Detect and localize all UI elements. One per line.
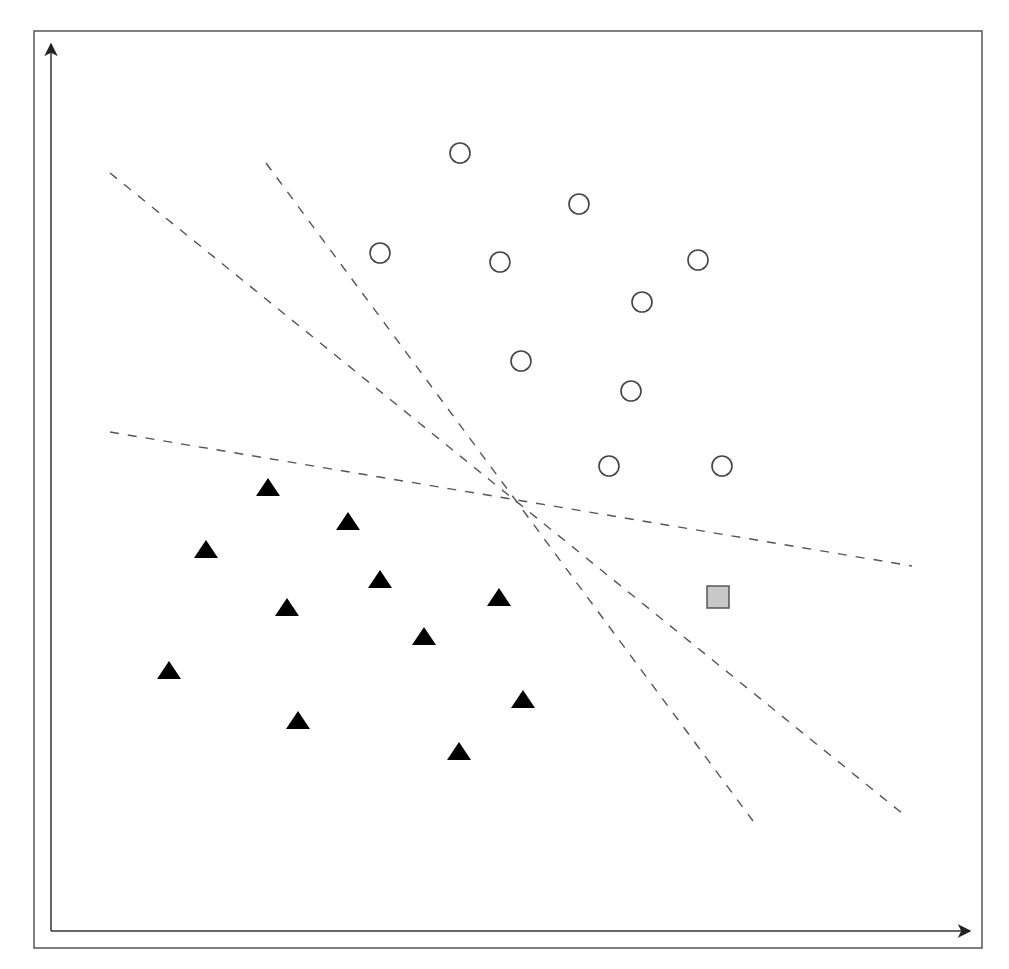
triangle-point [511,690,535,708]
triangle-point [275,598,299,616]
circle-point [599,456,619,476]
triangle-point [447,742,471,760]
triangle-point [286,711,310,729]
circle-point [511,351,531,371]
scatter-figure [0,0,1009,969]
circle-point [712,456,732,476]
circle-point [621,381,641,401]
triangle-point [412,627,436,645]
triangle-point [487,588,511,606]
triangle-point [336,512,360,530]
circle-class-points [370,143,732,476]
triangle-point [157,661,181,679]
circle-point [569,194,589,214]
figure-frame [34,31,982,948]
separating-lines [110,163,912,821]
circle-point [490,252,510,272]
triangle-class-points [157,478,535,760]
triangle-point [256,478,280,496]
circle-point [632,292,652,312]
query-point-layer [707,586,729,608]
hyperplane-c [110,432,912,566]
triangle-point [368,570,392,588]
circle-point [688,250,708,270]
circle-point [450,143,470,163]
query-point-square [707,586,729,608]
triangle-point [194,540,218,558]
circle-point [370,243,390,263]
